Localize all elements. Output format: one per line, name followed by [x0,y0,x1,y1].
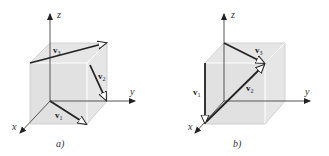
z-axis-label: z [56,9,61,20]
figure: z y x v3 v2 v1 a) z y x [0,0,329,156]
v1-label-b: v1 [193,87,201,98]
caption-a: a) [56,138,65,150]
x-axis-label: x [187,121,193,132]
caption-b: b) [233,138,242,150]
z-axis-label: z [230,9,235,20]
y-axis-label: y [129,86,135,97]
x-axis-label: x [11,121,17,132]
panel-a: z y x v3 v2 v1 a) [11,9,135,150]
panel-b: z y x v3 v2 v1 b) [187,9,310,150]
y-axis-label: y [304,86,310,97]
